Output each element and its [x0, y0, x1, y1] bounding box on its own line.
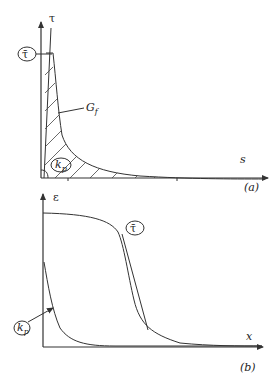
kp-label-sub: p	[62, 164, 67, 173]
tau-bar-label: τ̄	[22, 48, 28, 61]
gf-leader	[58, 108, 84, 113]
x-axis-label: x	[246, 330, 253, 343]
tau-axis-label: τ	[49, 12, 55, 25]
s-axis-label: s	[240, 153, 246, 166]
kp-curve	[44, 262, 262, 346]
kp-label: kp	[55, 158, 67, 173]
gf-label: Gf	[86, 101, 100, 116]
panel-b: ε x τ̄ kp (b)	[14, 191, 263, 374]
kp-label-b-sub: p	[24, 327, 29, 336]
panel-a-tag: (a)	[244, 181, 259, 194]
tau-bar-tangent	[122, 234, 148, 330]
tau-bar-curve	[43, 213, 262, 346]
softening-curve	[46, 53, 265, 179]
gf-label-sub: f	[94, 107, 100, 116]
panel-a: τ s τ̄ Gf	[18, 12, 268, 194]
tau-bar-label-b: τ̄	[130, 222, 136, 235]
gf-label-main: G	[86, 101, 95, 114]
panel-b-tag: (b)	[240, 361, 256, 374]
kp-arrow	[28, 308, 53, 322]
kp-label-b: kp	[17, 321, 29, 336]
elastic-line	[44, 28, 51, 178]
epsilon-axis-label: ε	[53, 191, 59, 204]
diagram-canvas: τ s τ̄ Gf	[0, 0, 272, 387]
